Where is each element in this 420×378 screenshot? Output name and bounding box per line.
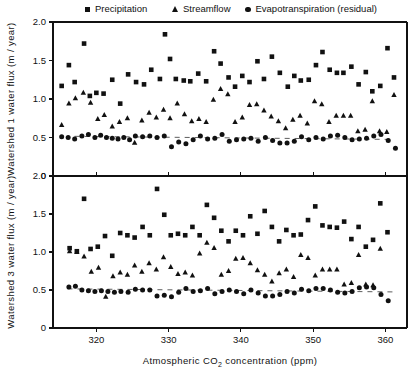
filled-circle-marker-icon <box>245 7 251 13</box>
data-point-circle <box>191 289 196 294</box>
data-point-square <box>158 77 163 82</box>
data-point-circle <box>118 289 123 294</box>
data-point-triangle <box>298 252 303 257</box>
data-point-triangle <box>326 119 331 124</box>
data-point-square <box>196 71 201 76</box>
data-point-circle <box>364 136 369 141</box>
data-point-square <box>103 234 108 239</box>
data-point-square <box>118 231 123 236</box>
data-point-triangle <box>73 95 78 100</box>
data-point-circle <box>321 137 326 142</box>
data-point-circle <box>313 135 318 140</box>
y-axis-label-watershed-1: Watershed 1 water flux (m / year) <box>5 22 16 175</box>
data-point-triangle <box>125 115 130 120</box>
data-point-triangle <box>154 114 159 119</box>
panel-3-series-circle <box>66 284 390 303</box>
data-point-square <box>134 80 139 85</box>
data-point-square <box>356 225 361 230</box>
panel-watershed-3: 00.51.01.52.0 320330340350360 <box>33 170 407 345</box>
data-point-circle <box>299 134 304 139</box>
data-point-circle <box>169 144 174 149</box>
data-point-square <box>247 80 252 85</box>
data-point-triangle <box>103 294 108 299</box>
data-point-circle <box>378 292 383 297</box>
data-point-triangle <box>66 101 71 106</box>
data-point-circle <box>116 137 121 142</box>
filled-triangle-marker-icon <box>172 6 178 12</box>
data-point-circle <box>241 291 246 296</box>
data-point-circle <box>198 133 203 138</box>
data-point-circle <box>263 294 268 299</box>
data-point-triangle <box>370 98 375 103</box>
data-point-square <box>72 80 77 85</box>
panel-3-y-tick-label: 1.0 <box>33 246 46 257</box>
panel-1-y-tick-label: 1.5 <box>33 55 46 66</box>
data-point-square <box>370 89 375 94</box>
data-point-triangle <box>232 119 237 124</box>
data-point-square <box>291 233 296 238</box>
data-point-circle <box>220 289 225 294</box>
data-point-circle <box>155 135 160 140</box>
panel-1-axes-frame <box>53 22 407 176</box>
panel-3-y-tick-label: 0.5 <box>33 284 46 295</box>
data-point-circle <box>342 291 347 296</box>
data-point-triangle <box>291 274 296 279</box>
data-point-circle <box>66 135 71 140</box>
data-point-triangle <box>312 98 317 103</box>
data-point-square <box>204 79 209 84</box>
data-point-triangle <box>247 102 252 107</box>
panel-3-y-tick-labels: 00.51.01.52.0 <box>33 170 46 333</box>
data-point-square <box>320 50 325 55</box>
data-point-triangle <box>305 255 310 260</box>
panel-3-y-tick-label: 2.0 <box>33 170 46 181</box>
data-point-circle <box>220 132 225 137</box>
legend-entry-precipitation: Precipitation <box>85 3 147 15</box>
data-point-circle <box>248 288 253 293</box>
data-point-circle <box>256 139 261 144</box>
legend-label-evapotranspiration: Evapotranspiration (residual) <box>256 3 377 14</box>
data-point-triangle <box>240 255 245 260</box>
panel-1-series-circle <box>59 132 398 151</box>
data-point-square <box>101 91 106 96</box>
data-point-square <box>95 244 100 249</box>
data-point-circle <box>386 298 391 303</box>
data-point-square <box>327 67 332 72</box>
data-point-triangle <box>356 252 361 257</box>
data-point-triangle <box>283 125 288 130</box>
data-point-triangle <box>182 111 187 116</box>
data-point-triangle <box>139 269 144 274</box>
data-point-triangle <box>59 122 64 127</box>
data-point-square <box>364 70 369 75</box>
data-point-square <box>320 223 325 228</box>
data-point-triangle <box>190 272 195 277</box>
data-point-square <box>335 71 340 76</box>
data-point-circle <box>328 133 333 138</box>
panel-3-y-tick-label: 1.5 <box>33 208 46 219</box>
data-point-triangle <box>255 267 260 272</box>
data-point-square <box>233 84 238 89</box>
data-point-square <box>67 63 72 68</box>
data-point-circle <box>92 135 97 140</box>
data-point-square <box>197 233 202 238</box>
data-point-circle <box>162 133 167 138</box>
data-point-circle <box>386 138 391 143</box>
data-point-triangle <box>110 273 115 278</box>
data-point-square <box>82 197 87 202</box>
panel-3-data-points <box>66 187 390 304</box>
data-point-square <box>94 91 99 96</box>
data-point-triangle <box>391 92 396 97</box>
data-point-triangle <box>284 266 289 271</box>
data-point-circle <box>285 140 290 145</box>
filled-square-marker-icon <box>85 7 90 12</box>
data-point-triangle <box>341 282 346 287</box>
data-point-triangle <box>313 272 318 277</box>
data-point-circle <box>112 290 117 295</box>
data-point-square <box>168 233 173 238</box>
data-point-triangle <box>218 86 223 91</box>
data-point-triangle <box>168 264 173 269</box>
data-point-square <box>248 214 253 219</box>
data-point-circle <box>176 140 181 145</box>
data-point-triangle <box>197 250 202 255</box>
panel-3-tick-marks <box>49 176 385 332</box>
data-point-circle <box>133 287 138 292</box>
